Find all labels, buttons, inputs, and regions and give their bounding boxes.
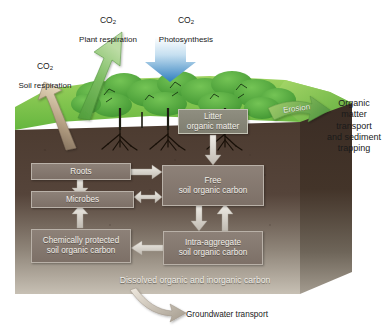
pool-litter-organic-matter[interactable]: Litter organic matter [178, 109, 248, 134]
soil-respiration-name: Soil respiration [19, 81, 72, 90]
soil-carbon-cycle-diagram: CO2 Plant respiration CO2 Photosynthesis… [0, 0, 390, 327]
pool-free-soil-organic-carbon[interactable]: Free soil organic carbon [162, 165, 264, 206]
pool-roots[interactable]: Roots [31, 163, 131, 180]
pool-chemically-protected-soil-organic-carbon[interactable]: Chemically protected soil organic carbon [31, 229, 131, 263]
groundwater-transport-label: Groundwater transport [186, 310, 268, 319]
pool-intra-aggregate-soil-organic-carbon[interactable]: Intra-aggregate soil organic carbon [163, 231, 263, 265]
plant-respiration-co2: CO2 [100, 15, 116, 25]
photosynthesis-label: CO2 Photosynthesis [126, 6, 246, 45]
soil-respiration-label: CO2 Soil respiration [2, 52, 88, 91]
organic-matter-transport-label: Organic matter transport and sediment tr… [318, 98, 390, 154]
photosynthesis-co2: CO2 [178, 15, 194, 25]
pool-dissolved-organic-inorganic-carbon: Dissolved organic and inorganic carbon [0, 275, 390, 285]
photosynthesis-name: Photosynthesis [159, 35, 213, 44]
soil-respiration-co2: CO2 [37, 61, 53, 71]
pool-microbes[interactable]: Microbes [31, 191, 134, 208]
